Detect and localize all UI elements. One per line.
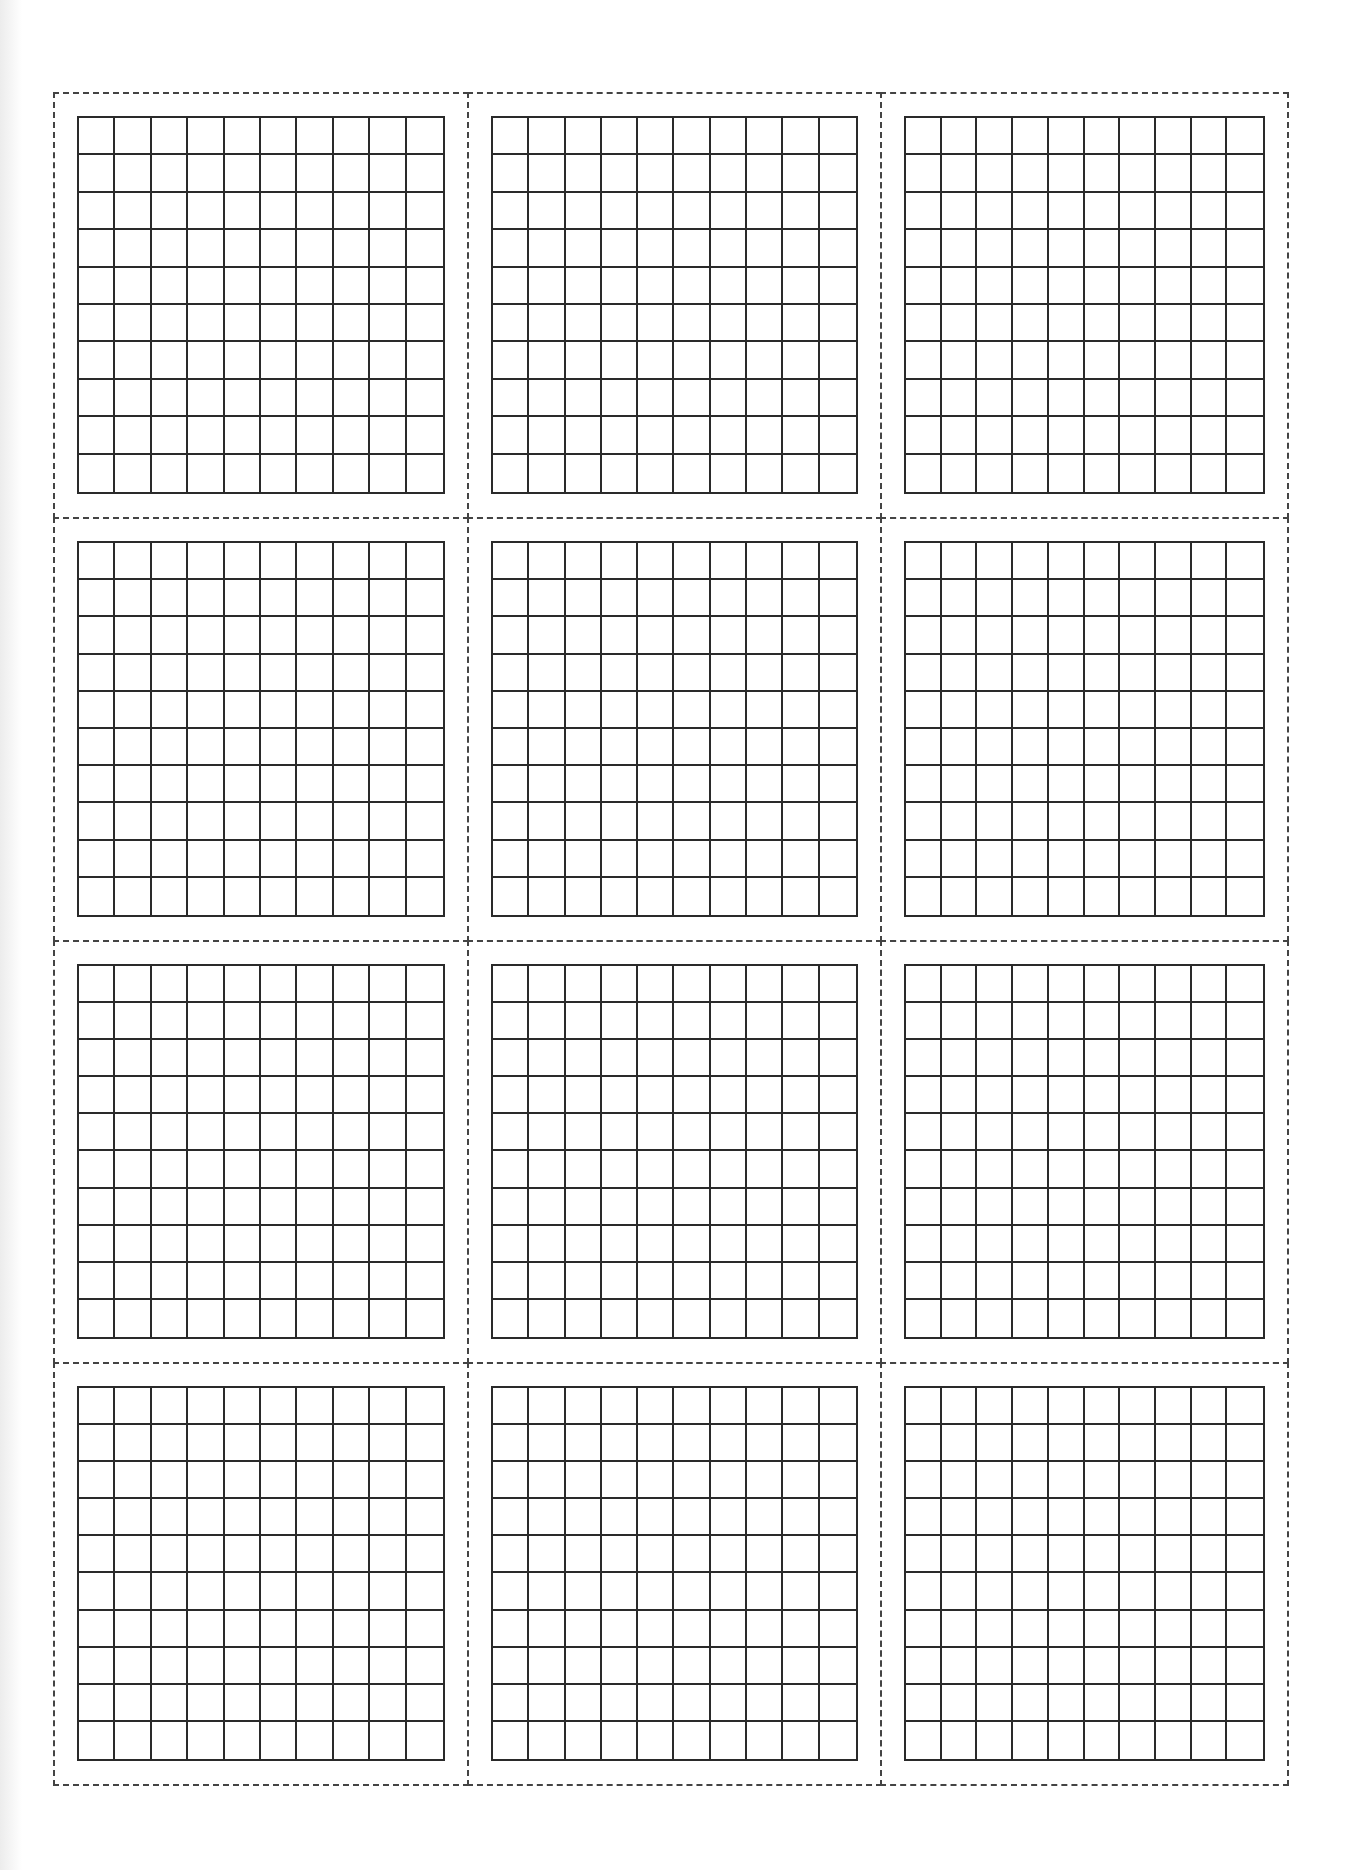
grid-square	[711, 1226, 747, 1263]
grid-square	[1013, 268, 1049, 305]
grid-square	[977, 417, 1013, 454]
grid-square	[334, 966, 370, 1003]
grid-square	[977, 118, 1013, 155]
grid-square	[1120, 1388, 1156, 1425]
grid-square	[115, 1462, 151, 1499]
grid-square	[942, 766, 978, 803]
grid-square	[407, 268, 443, 305]
grid-square	[188, 342, 224, 379]
grid-square	[747, 766, 783, 803]
grid-square	[977, 1425, 1013, 1462]
grid-square	[152, 1263, 188, 1300]
grid-square	[747, 1462, 783, 1499]
grid-square	[407, 1151, 443, 1188]
grid-square	[747, 580, 783, 617]
grid-square	[566, 342, 602, 379]
grid-square	[152, 1003, 188, 1040]
grid-square	[115, 155, 151, 192]
grid-square	[1120, 1077, 1156, 1114]
grid-square	[1013, 305, 1049, 342]
grid-square	[942, 1722, 978, 1759]
grid-square	[977, 1499, 1013, 1536]
grid-square	[1120, 1114, 1156, 1151]
grid-square	[1227, 1499, 1263, 1536]
grid-square	[602, 1388, 638, 1425]
grid-square	[1120, 1040, 1156, 1077]
grid-square	[225, 1573, 261, 1610]
grid-square	[1227, 417, 1263, 454]
grid-square	[261, 766, 297, 803]
grid-square	[334, 1462, 370, 1499]
grid-square	[747, 268, 783, 305]
grid-square	[711, 1040, 747, 1077]
grid-square	[1085, 1040, 1121, 1077]
grid-square	[747, 966, 783, 1003]
grid-square	[747, 1573, 783, 1610]
grid-square	[1156, 1189, 1192, 1226]
grid-square	[407, 803, 443, 840]
grid-square	[602, 966, 638, 1003]
grid-square	[225, 729, 261, 766]
grid-square	[783, 1611, 819, 1648]
grid-square	[1192, 1499, 1228, 1536]
grid-square	[638, 1114, 674, 1151]
grid-square	[1156, 342, 1192, 379]
grid-square	[493, 1388, 529, 1425]
grid-square	[225, 455, 261, 492]
grid-square	[566, 1300, 602, 1337]
grid-square	[407, 1536, 443, 1573]
grid-square	[1013, 878, 1049, 915]
grid-square	[115, 1648, 151, 1685]
grid-square	[152, 1722, 188, 1759]
grid-square	[370, 1425, 406, 1462]
grid-square	[493, 1077, 529, 1114]
grid-square	[1227, 230, 1263, 267]
grid-square	[566, 1040, 602, 1077]
grid-square	[1156, 1151, 1192, 1188]
grid-square	[820, 118, 856, 155]
grid-square	[566, 1573, 602, 1610]
grid-square	[820, 1499, 856, 1536]
grid-square	[602, 655, 638, 692]
grid-square	[1085, 729, 1121, 766]
grid-square	[297, 1648, 333, 1685]
grid-square	[225, 543, 261, 580]
grid-square	[602, 729, 638, 766]
grid-square	[297, 1263, 333, 1300]
hundred-square-grid	[77, 1386, 445, 1761]
grid-square	[261, 193, 297, 230]
grid-square	[1120, 766, 1156, 803]
grid-square	[529, 118, 565, 155]
grid-square	[566, 1151, 602, 1188]
grid-square	[529, 193, 565, 230]
grid-square	[115, 1300, 151, 1337]
grid-square	[493, 1151, 529, 1188]
grid-square	[261, 1722, 297, 1759]
grid-square	[334, 1040, 370, 1077]
grid-square	[79, 155, 115, 192]
grid-square	[747, 1685, 783, 1722]
grid-square	[1049, 1648, 1085, 1685]
grid-square	[225, 230, 261, 267]
grid-square	[115, 118, 151, 155]
grid-square	[783, 1462, 819, 1499]
grid-square	[820, 1151, 856, 1188]
grid-square	[906, 1685, 942, 1722]
grid-square	[1049, 966, 1085, 1003]
grid-square	[674, 841, 710, 878]
grid-square	[79, 841, 115, 878]
grid-square	[334, 803, 370, 840]
grid-square	[820, 878, 856, 915]
grid-square	[370, 380, 406, 417]
grid-square	[188, 118, 224, 155]
grid-square	[1192, 1077, 1228, 1114]
grid-square	[493, 1722, 529, 1759]
grid-square	[1227, 1388, 1263, 1425]
grid-square	[747, 617, 783, 654]
grid-square	[493, 1300, 529, 1337]
grid-square	[820, 155, 856, 192]
grid-square	[906, 1226, 942, 1263]
grid-square	[529, 1573, 565, 1610]
grid-square	[334, 155, 370, 192]
grid-square	[820, 230, 856, 267]
